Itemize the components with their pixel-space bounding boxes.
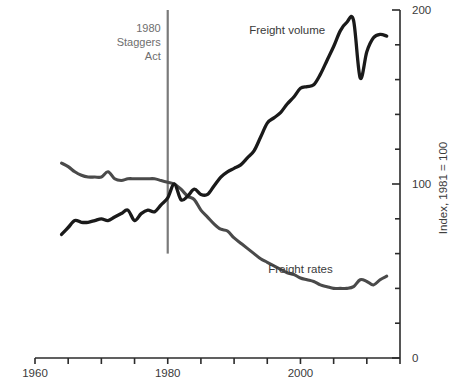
annotation-line-2: Staggers: [117, 36, 162, 48]
x-axis-tick-label: 1980: [155, 367, 181, 379]
series-label-freight-rates: Freight rates: [268, 263, 333, 275]
freight-index-chart: 1980 Staggers Act Freight volume Freight…: [0, 0, 457, 388]
figure-container: 1980 Staggers Act Freight volume Freight…: [0, 0, 457, 388]
y-axis-title: Index, 1981 = 100: [437, 142, 449, 234]
y-axis-tick-label: 200: [412, 4, 431, 16]
y-axis-tick-label: 0: [412, 352, 418, 364]
y-axis-tick-label: 100: [412, 178, 431, 190]
figure-caption: [6, 381, 457, 388]
annotation-line-3: Act: [145, 50, 161, 62]
series-label-freight-volume: Freight volume: [249, 24, 325, 36]
x-axis-tick-label: 1960: [22, 367, 48, 379]
x-axis-tick-label: 2000: [288, 367, 314, 379]
chart-background: [0, 0, 457, 388]
annotation-line-1: 1980: [136, 22, 160, 34]
